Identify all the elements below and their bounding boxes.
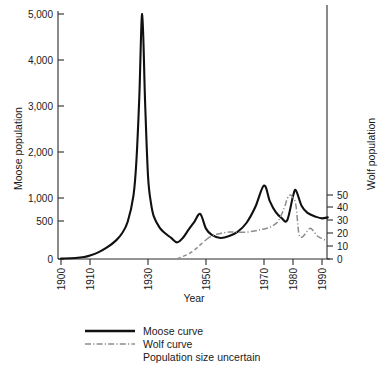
y2-tick-label-20: 20: [337, 228, 349, 239]
y-axis-left-title: Moose population: [12, 107, 24, 190]
x-tick-label-1980: 1980: [288, 268, 299, 291]
y-axis-right-tick-labels: 50 40 30 20 10 0: [337, 190, 349, 265]
x-tick-label-1970: 1970: [259, 268, 270, 291]
chart-legend: Moose curve Wolf curve Population size u…: [85, 325, 260, 363]
x-tick-label-1910: 1910: [85, 268, 96, 291]
y-tick-label-2000: 2,000: [28, 147, 53, 158]
y2-tick-label-40: 40: [337, 202, 349, 213]
x-tick-label-1930: 1930: [143, 268, 154, 291]
x-axis-ticks: [61, 259, 322, 265]
y-tick-label-500: 500: [36, 216, 53, 227]
y2-tick-label-0: 0: [337, 254, 343, 265]
x-tick-label-1950: 1950: [201, 268, 212, 291]
y-axis-right-title: Wolf population: [365, 118, 377, 190]
y2-tick-label-50: 50: [337, 190, 349, 201]
y-tick-label-0: 0: [47, 254, 53, 265]
y2-tick-label-30: 30: [337, 215, 349, 226]
y-tick-label-3000: 3,000: [28, 101, 53, 112]
legend-label-wolf: Wolf curve: [143, 338, 193, 350]
legend-note-population-uncertain: Population size uncertain: [143, 351, 260, 363]
y2-tick-label-10: 10: [337, 241, 349, 252]
legend-label-moose: Moose curve: [143, 325, 203, 337]
wolf-population-curve-uncertain: [177, 240, 206, 259]
x-tick-label-1990: 1990: [317, 268, 328, 291]
y-axis-right-ticks: [327, 195, 333, 259]
y-axis-left-tick-labels: 5,000 4,000 3,000 2,000 1,000 500 0: [28, 9, 53, 265]
x-tick-label-1900: 1900: [56, 268, 67, 291]
y-axis-left-ticks: [58, 14, 64, 259]
chart-plot-area: 5,000 4,000 3,000 2,000 1,000 500 0 Moos…: [0, 0, 384, 365]
x-axis-tick-labels: 1900 1910 1930 1950 1970 1980 1990: [56, 268, 328, 291]
moose-population-curve: [61, 14, 328, 259]
y-tick-label-1000: 1,000: [28, 193, 53, 204]
chart-figure: 5,000 4,000 3,000 2,000 1,000 500 0 Moos…: [0, 0, 384, 365]
y-tick-label-5000: 5,000: [28, 9, 53, 20]
x-axis-title: Year: [183, 292, 205, 304]
y-tick-label-4000: 4,000: [28, 55, 53, 66]
wolf-population-curve: [206, 195, 328, 240]
